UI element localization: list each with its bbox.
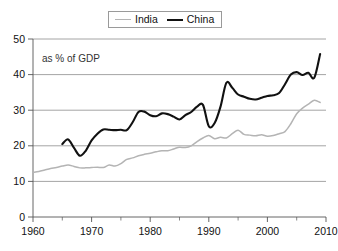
x-tick-label: 1970	[80, 225, 104, 237]
x-tick-label: 1960	[21, 225, 45, 237]
series-line-china	[62, 54, 320, 156]
x-tick-label: 2010	[314, 225, 338, 237]
y-tick-label: 10	[13, 175, 25, 187]
chart-container: India China 50 40 30 20	[0, 0, 338, 251]
series-line-india	[33, 100, 320, 172]
x-tick-label: 1990	[197, 225, 221, 237]
x-tick-label: 1980	[139, 225, 163, 237]
y-tick-label: 0	[19, 211, 25, 223]
y-tick-label: 20	[13, 139, 25, 151]
y-tick-labels: 50 40 30 20 10 0	[13, 33, 25, 223]
y-tick-label: 50	[13, 33, 25, 45]
x-tick-labels: 1960 1970 1980 1990 2000 2010	[21, 225, 338, 237]
x-axis-ticks	[33, 217, 326, 222]
y-tick-label: 40	[13, 68, 25, 80]
chart-plot-area: 50 40 30 20 10 0 1960 1970 1980 1990 200…	[0, 0, 338, 251]
chart-annotation: as % of GDP	[42, 53, 100, 64]
x-tick-label: 2000	[256, 225, 280, 237]
y-tick-label: 30	[13, 104, 25, 116]
y-axis	[28, 39, 33, 217]
gridlines	[33, 39, 326, 217]
